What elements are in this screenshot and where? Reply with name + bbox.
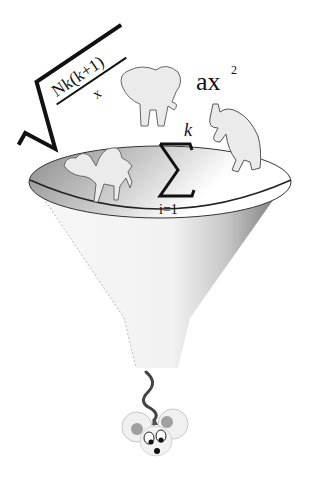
funnel-diagram: Nk(k+1) x ax 2 k i=1 [0,0,331,491]
sum-upper: k [184,120,193,140]
sqrt-denominator: x [90,85,104,101]
poly-base: ax [196,67,221,96]
elephant-icon [121,66,181,126]
funnel-illustration: Nk(k+1) x ax 2 k i=1 [0,0,331,491]
poly-exponent: 2 [231,63,237,77]
polynomial-formula: ax 2 [196,63,237,96]
sum-lower: i=1 [159,202,178,217]
